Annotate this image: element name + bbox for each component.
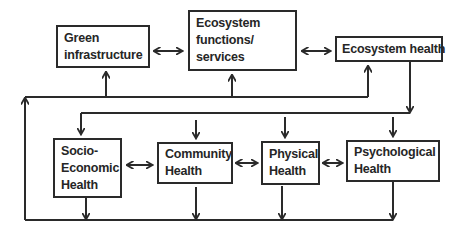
node-socio-economic-health: Socio- Economic Health [53, 138, 122, 198]
node-label-line: Economic [61, 160, 114, 177]
node-label-line: Health [61, 177, 114, 194]
node-community-health: Community Health [157, 142, 233, 184]
node-label-line: Ecosystem health [342, 41, 436, 58]
node-green-infrastructure: Green infrastructure [56, 25, 150, 68]
node-label-line: Community [165, 146, 225, 163]
node-label-line: Health [354, 161, 432, 178]
node-label-line: infrastructure [64, 47, 142, 64]
node-label-line: functions/ [196, 32, 289, 49]
node-label-line: Health [269, 163, 312, 180]
node-label-line: Physical [269, 146, 312, 163]
node-label-line: Socio- [61, 143, 114, 160]
node-label-line: services [196, 49, 289, 66]
node-physical-health: Physical Health [261, 141, 320, 185]
node-ecosystem-health: Ecosystem health [335, 36, 443, 62]
node-psychological-health: Psychological Health [346, 140, 440, 182]
health-ecosystem-diagram: Green infrastructure Ecosystem functions… [0, 0, 464, 234]
node-ecosystem-services: Ecosystem functions/ services [188, 10, 297, 71]
node-label-line: Ecosystem [196, 15, 289, 32]
node-label-line: Health [165, 163, 225, 180]
node-label-line: Psychological [354, 144, 432, 161]
node-label-line: Green [64, 30, 142, 47]
